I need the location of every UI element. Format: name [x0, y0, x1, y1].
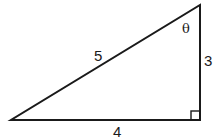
triangle-diagram: 5 3 4 θ [0, 0, 215, 139]
right-angle-marker [191, 111, 200, 120]
hypotenuse-label: 5 [94, 47, 102, 64]
angle-theta-label: θ [182, 21, 190, 36]
vertical-leg-label: 3 [204, 52, 212, 69]
horizontal-leg-label: 4 [113, 123, 121, 139]
triangle-shape [11, 5, 200, 120]
